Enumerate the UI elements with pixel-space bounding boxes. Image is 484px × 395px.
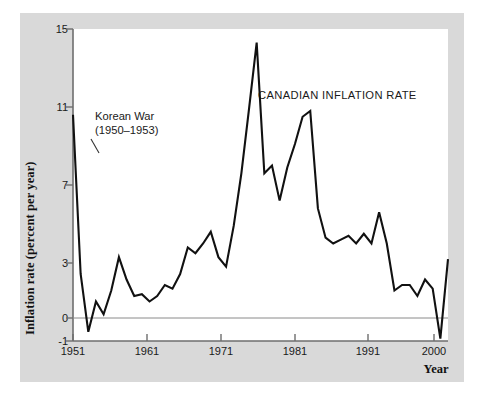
inflation-chart-figure: Inflation rate (percent per year) 15 11 … bbox=[0, 0, 484, 395]
y-axis-ticks bbox=[66, 29, 73, 341]
inflation-rate-line bbox=[73, 43, 448, 339]
chart-svg-layer bbox=[0, 0, 484, 395]
x-axis-ticks bbox=[73, 334, 434, 341]
korean-war-leader-line bbox=[91, 139, 99, 153]
